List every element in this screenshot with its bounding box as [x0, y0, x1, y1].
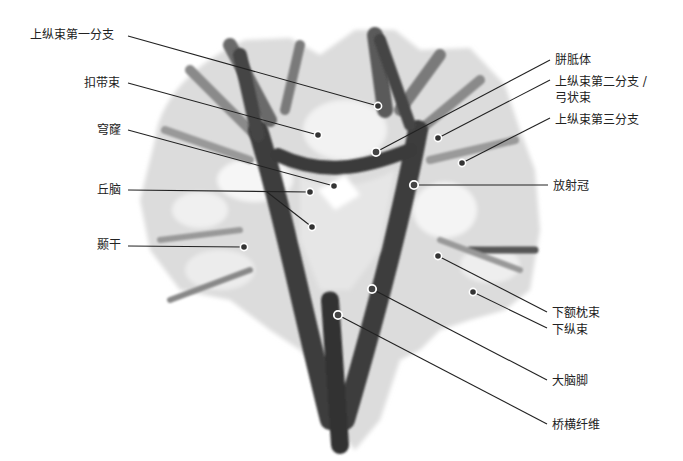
label-cingulum: 扣带束	[84, 76, 120, 90]
label-inferior-longitudinal-fasciculus: 下纵束	[552, 323, 588, 337]
label-superior-longitudinal-fasciculus-iii: 上纵束第三分支	[555, 113, 639, 127]
label-corpus-callosum: 胼胝体	[555, 53, 591, 67]
label-transverse-pontine-fibers: 桥横纤维	[552, 418, 600, 432]
label-superior-longitudinal-fasciculus-ii: 上纵束第二分支 /	[555, 75, 647, 89]
brain-fiber-illustration	[0, 0, 683, 461]
label-thalamus: 丘脑	[97, 183, 121, 197]
label-superior-longitudinal-fasciculus-i: 上纵束第一分支	[30, 28, 114, 42]
label-temporal-stem: 颞干	[97, 238, 121, 252]
label-arcuate-fasciculus: 弓状束	[555, 91, 591, 105]
label-corona-radiata: 放射冠	[553, 179, 589, 193]
label-inferior-fronto-occipital-fasciculus: 下额枕束	[552, 306, 600, 320]
label-fornix: 穹窿	[97, 123, 121, 137]
label-cerebral-peduncle: 大脑脚	[552, 374, 588, 388]
